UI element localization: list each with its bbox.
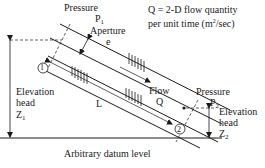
pressure2-label: Pressure (196, 86, 230, 97)
flow-label: Flow (149, 85, 170, 96)
aperture-label: Aperture (90, 25, 126, 36)
flow-arrow (120, 67, 150, 82)
flow-symbol: Q (156, 96, 163, 107)
pressure1-label: Pressure (64, 2, 98, 13)
length-label: L (96, 98, 102, 109)
elev1-label-line1: Elevation (16, 86, 54, 97)
legend-line1: Q = 2-D flow quantity (148, 4, 238, 15)
aperture-arrow (80, 39, 88, 54)
point2-label: 2 (177, 124, 181, 135)
legend-unit-prefix: per unit time (m (148, 18, 213, 29)
z1-label: Z1 (16, 109, 26, 124)
datum-label: Arbitrary datum level (64, 148, 151, 159)
point1-label: 1 (40, 62, 44, 73)
elev2-label-line1: Elevation (219, 106, 257, 117)
p2-label: P2 (210, 97, 219, 112)
z2-label: Z2 (219, 128, 229, 143)
legend-unit-suffix: /sec) (216, 18, 235, 29)
aperture-symbol: e (106, 36, 110, 47)
elev2-label-line2: head (219, 117, 238, 128)
elev1-label-line2: head (16, 97, 35, 108)
section2-point (182, 106, 185, 109)
legend-line2: per unit time (m2/sec) (148, 16, 235, 29)
